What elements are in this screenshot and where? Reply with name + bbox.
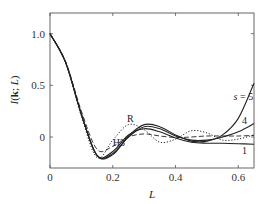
curve-label: H3 (113, 137, 125, 148)
x-axis-label: L (148, 188, 155, 200)
curve-R (50, 34, 254, 159)
x-tick-label: 0.4 (169, 171, 183, 183)
curve-label: 4 (242, 115, 247, 126)
x-tick-label: 0.6 (231, 171, 245, 183)
curve-label: 1 (242, 145, 247, 156)
chart-curves (50, 34, 254, 159)
y-tick-label: 0 (40, 131, 46, 143)
curve-1 (50, 34, 254, 158)
x-tick-label: 0 (47, 171, 53, 183)
y-axis-label: I(k; L) (8, 75, 21, 105)
x-tick-label: 0.2 (106, 171, 120, 183)
line-chart: 00.20.40.6 00.51.0 RH3s = 541 L I(k; L) (0, 0, 268, 204)
y-tick-label: 0.5 (31, 79, 45, 91)
y-tick-label: 1.0 (31, 28, 45, 40)
curve-label: R (127, 113, 134, 124)
curve-labels: RH3s = 541 (113, 91, 253, 156)
plot-frame (50, 13, 254, 168)
curve-label: s = 5 (234, 91, 254, 102)
